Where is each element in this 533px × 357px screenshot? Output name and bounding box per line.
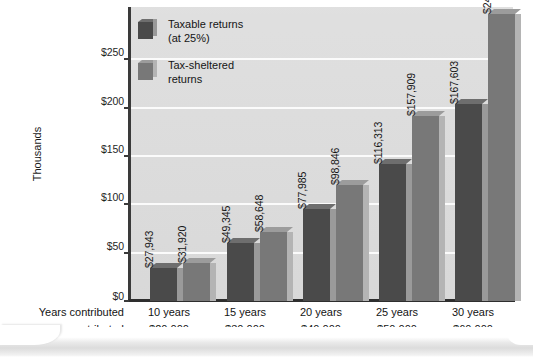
bar-value-taxable-10-years: $27,943 xyxy=(143,231,155,268)
bar-front-face xyxy=(260,232,287,301)
y-tick-mark-100 xyxy=(124,203,129,205)
bar-value-sheltered-25-years: $157,909 xyxy=(405,73,417,116)
x-axis-category-30-years: 30 years $60,000 xyxy=(428,304,518,338)
bar-front-face xyxy=(488,14,515,301)
category-dollars-label: $60,000 xyxy=(428,321,518,338)
bar-value-taxable-25-years: $116,313 xyxy=(372,122,384,164)
bar-front-face xyxy=(303,209,330,301)
row-header-total-dollars-contributed: Total dollars contributed xyxy=(0,321,124,338)
y-tick-label-150: $150 xyxy=(78,143,124,155)
legend-item-taxable: Taxable returns (at 25%) xyxy=(138,18,243,45)
bar-front-face xyxy=(379,164,406,301)
y-axis-tick-labels: $250 $200 $150 $100 $50 $0 xyxy=(74,0,124,310)
bar-value-taxable-20-years: $77,985 xyxy=(296,172,308,209)
legend-swatch-sheltered-icon xyxy=(138,60,157,80)
legend-label-sheltered: Tax-sheltered returns xyxy=(168,59,234,86)
bar-side-face xyxy=(363,185,369,301)
bar-value-sheltered-20-years: $98,846 xyxy=(329,148,341,185)
bar-front-face xyxy=(150,268,177,301)
bar-front-face xyxy=(227,243,254,301)
bar-front-face xyxy=(336,185,363,301)
bar-side-face xyxy=(287,232,293,301)
category-years-label: 30 years xyxy=(428,304,518,321)
y-tick-mark-250 xyxy=(124,58,129,60)
row-header-years-contributed: Years contributed xyxy=(0,304,124,321)
y-tick-mark-150 xyxy=(124,155,129,157)
y-tick-label-200: $200 xyxy=(78,95,124,107)
x-axis-category-labels: 10 years $20,000 15 years $30,000 20 yea… xyxy=(131,304,513,350)
bar-side-face xyxy=(439,116,445,301)
legend-swatch-taxable-icon xyxy=(138,19,157,39)
bar-side-face xyxy=(515,14,521,301)
bar-value-sheltered-15-years: $58,648 xyxy=(253,195,265,232)
bar-front-face xyxy=(455,104,482,301)
bar-value-taxable-30-years: $167,603 xyxy=(448,61,460,104)
y-tick-mark-200 xyxy=(124,107,129,109)
y-tick-mark-50 xyxy=(124,252,129,254)
axis-row-headers: Years contributed Total dollars contribu… xyxy=(0,304,124,338)
y-tick-label-100: $100 xyxy=(78,191,124,203)
bar-value-sheltered-10-years: $31,920 xyxy=(176,226,188,263)
y-tick-label-0: $0 xyxy=(78,290,124,302)
bar-value-sheltered-30-years: $244,691 xyxy=(481,0,493,14)
y-tick-mark-0 xyxy=(124,300,129,302)
chart-legend: Taxable returns (at 25%) Tax-sheltered r… xyxy=(138,18,243,100)
y-tick-label-50: $50 xyxy=(78,240,124,252)
chart-figure: $27,943 $31,920 $49,345 $58,648 $77,985 xyxy=(0,0,533,357)
bar-front-face xyxy=(183,263,210,301)
bar-value-taxable-15-years: $49,345 xyxy=(220,206,232,243)
bar-front-face xyxy=(412,116,439,301)
legend-label-taxable: Taxable returns (at 25%) xyxy=(168,18,243,45)
y-axis-title: Thousands xyxy=(31,104,43,204)
bar-side-face xyxy=(210,263,216,301)
y-tick-label-250: $250 xyxy=(78,46,124,58)
legend-item-sheltered: Tax-sheltered returns xyxy=(138,59,243,86)
